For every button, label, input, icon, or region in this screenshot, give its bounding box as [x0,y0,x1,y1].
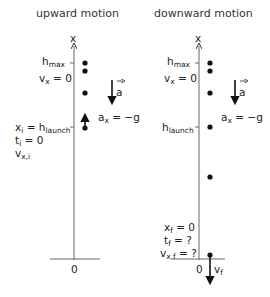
downward-hlaunch-label: hlaunch [162,121,194,137]
downward-origin-label: 0 [196,263,203,275]
upward-hmax-label: hmax [42,55,65,71]
downward-hmax-label: hmax [167,55,190,71]
upward-vx-zero-label: vx = 0 [39,72,72,88]
upward-vector-a-label: a [116,86,122,98]
upward-panel-title: upward motion [36,7,119,20]
downward-vx-zero-label: vx = 0 [164,72,197,88]
downward-axis-label: x [195,32,201,44]
upward-axis-label: x [70,32,76,44]
upward-origin-label: 0 [71,263,78,275]
upward-initial-velocity-label: vx,i [15,147,30,163]
final-velocity-vf-label: vf [214,263,223,279]
downward-panel-title: downward motion [154,7,253,20]
downward-vector-a-label: a [239,86,245,98]
downward-position-dots [207,60,212,257]
downward-final-velocity-label: vx,f = ? [160,247,197,263]
downward-ax-label: ax = −g [221,111,263,127]
upward-ax-label: ax = −g [98,111,140,127]
